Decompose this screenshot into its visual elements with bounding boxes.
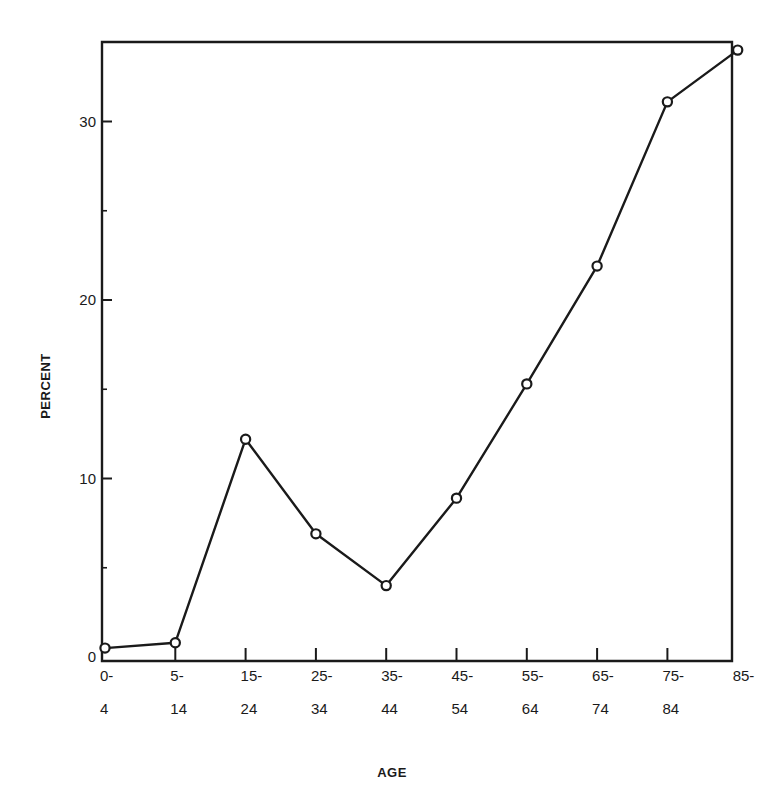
series-line: [105, 50, 738, 648]
x-tick-label-top: 55-: [522, 667, 544, 684]
x-tick-label-top: 35-: [381, 667, 403, 684]
x-tick-label-bottom: 54: [452, 700, 469, 717]
plot-border: [102, 42, 732, 661]
x-tick-label-bottom: 24: [241, 700, 258, 717]
data-point-marker: [171, 638, 180, 647]
x-tick-label-bottom: 34: [311, 700, 328, 717]
x-tick-label-bottom: 64: [522, 700, 539, 717]
x-tick-label-bottom: 4: [100, 700, 108, 717]
data-point-marker: [311, 529, 320, 538]
data-series: [100, 46, 742, 653]
plot-frame: [102, 42, 732, 661]
x-tick-label-bottom: 14: [170, 700, 187, 717]
y-tick-label: 20: [79, 291, 96, 308]
data-point-marker: [382, 581, 391, 590]
x-tick-label-top: 85-: [733, 667, 755, 684]
data-point-marker: [522, 379, 531, 388]
x-tick-label-top: 45-: [452, 667, 474, 684]
x-tick-label-top: 15-: [241, 667, 263, 684]
data-point-marker: [452, 494, 461, 503]
y-tick-label: 0: [88, 648, 96, 665]
x-tick-label-bottom: 44: [381, 700, 398, 717]
x-tick-label-top: 65-: [592, 667, 614, 684]
x-tick-label-top: 5-: [170, 667, 183, 684]
y-axis: 0102030: [79, 113, 112, 666]
y-axis-title: PERCENT: [38, 353, 53, 419]
x-tick-label-top: 75-: [662, 667, 684, 684]
y-tick-label: 30: [79, 113, 96, 130]
x-tick-label-bottom: 84: [662, 700, 679, 717]
data-point-marker: [100, 643, 109, 652]
x-tick-label-bottom: 74: [592, 700, 609, 717]
data-point-marker: [593, 261, 602, 270]
x-axis: 0-45-1415-2425-3435-4445-5455-6465-7475-…: [100, 648, 754, 717]
data-point-marker: [241, 435, 250, 444]
x-tick-label-top: 0-: [100, 667, 113, 684]
line-chart: 0102030 0-45-1415-2425-3435-4445-5455-64…: [0, 0, 774, 802]
x-axis-title: AGE: [377, 765, 407, 780]
y-tick-label: 10: [79, 470, 96, 487]
x-tick-label-top: 25-: [311, 667, 333, 684]
data-point-marker: [733, 46, 742, 55]
data-point-marker: [663, 97, 672, 106]
